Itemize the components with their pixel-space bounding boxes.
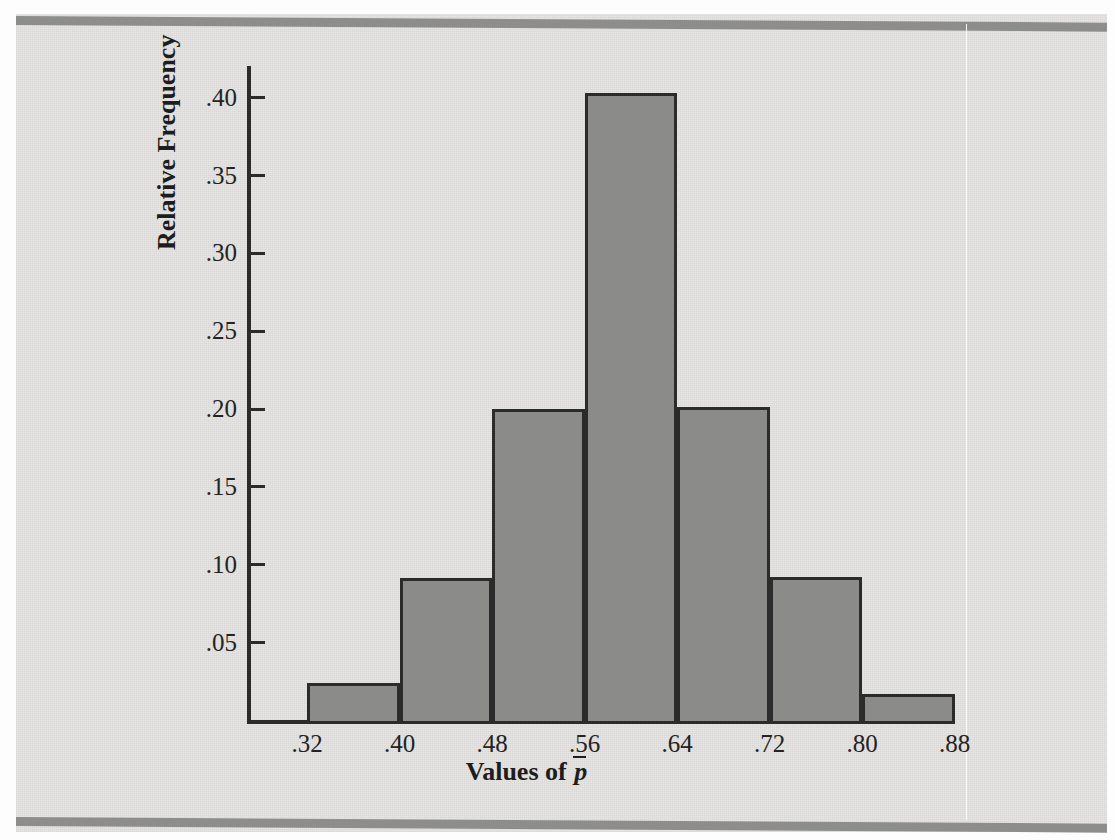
y-axis-tick: .40	[247, 96, 265, 99]
y-axis-tick-label: .10	[206, 551, 237, 579]
y-axis-tick: .10	[247, 563, 265, 566]
y-axis-tick-mark	[251, 485, 265, 488]
y-axis-tick-label: .25	[206, 317, 237, 345]
histogram-bar	[677, 407, 770, 724]
x-axis-tick-label: .80	[846, 730, 877, 758]
x-axis-tick-label: .64	[661, 730, 692, 758]
y-axis-tick: .05	[247, 641, 265, 644]
y-axis-tick-label: .35	[206, 162, 237, 190]
y-axis-tick: .15	[247, 485, 265, 488]
histogram-bar	[307, 683, 400, 724]
y-axis-tick: .20	[247, 408, 265, 411]
plot-area: .05.10.15.20.25.30.35.40 .32.40.48.56.64…	[247, 66, 950, 723]
y-axis-tick-mark	[251, 252, 265, 255]
y-axis-tick-mark	[251, 174, 265, 177]
y-axis-tick-label: .15	[206, 473, 237, 501]
y-axis-tick-mark	[251, 408, 265, 411]
x-axis-tick-label: .32	[291, 730, 322, 758]
y-axis-tick-label: .20	[206, 395, 237, 423]
x-axis-tick-label: .40	[384, 730, 415, 758]
scanned-page: .05.10.15.20.25.30.35.40 .32.40.48.56.64…	[0, 0, 1115, 840]
p-symbol-letter: p	[574, 757, 587, 786]
y-axis-tick-mark	[251, 641, 265, 644]
histogram-figure: .05.10.15.20.25.30.35.40 .32.40.48.56.64…	[0, 0, 1115, 840]
y-axis-title: Relative Frequency	[152, 0, 182, 250]
overbar-glyph	[573, 756, 586, 758]
histogram-bar	[585, 93, 678, 724]
y-axis-tick-mark	[251, 330, 265, 333]
x-axis-tick-label: .56	[569, 730, 600, 758]
histogram-bar	[770, 577, 863, 724]
x-axis-tick-label: .88	[939, 730, 970, 758]
y-axis-tick-mark	[251, 96, 265, 99]
histogram-bar	[400, 578, 493, 724]
histogram-bar	[492, 409, 585, 724]
p-bar-symbol: p	[573, 757, 588, 787]
y-axis-tick-label: .30	[206, 239, 237, 267]
y-axis-tick: .35	[247, 174, 265, 177]
y-axis-tick: .25	[247, 330, 265, 333]
x-axis-tick-label: .48	[476, 730, 507, 758]
y-axis-tick: .30	[247, 252, 265, 255]
x-axis-title: Values of p	[247, 757, 807, 787]
y-axis-tick-label: .40	[206, 84, 237, 112]
x-axis-title-text: Values of	[466, 757, 573, 786]
y-axis-line	[247, 66, 251, 723]
histogram-bar	[862, 694, 955, 724]
x-axis-tick-label: .72	[754, 730, 785, 758]
y-axis-tick-mark	[251, 563, 265, 566]
y-axis-tick-label: .05	[206, 629, 237, 657]
